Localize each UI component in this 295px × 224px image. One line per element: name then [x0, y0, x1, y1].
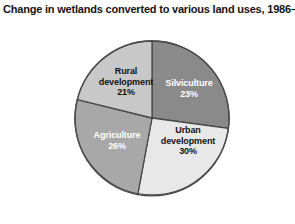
page-title: Change in wetlands converted to various …	[3, 3, 295, 15]
pie-label-silviculture-line1: Silviculture	[165, 78, 212, 88]
pie-label-agriculture-value: 26%	[108, 141, 126, 151]
pie-label-urban-development: Urban development 30%	[151, 125, 225, 157]
pie-label-silviculture: Silviculture 23%	[153, 78, 225, 99]
pie-label-rural-development-line1: Rural	[115, 66, 138, 76]
pie-label-rural-development: Rural development 21%	[89, 66, 163, 98]
pie-label-rural-development-value: 21%	[117, 87, 135, 97]
pie-label-urban-development-value: 30%	[179, 146, 197, 156]
pie-chart-svg	[73, 39, 231, 197]
pie-label-urban-development-line1: Urban	[175, 125, 201, 135]
pie-label-silviculture-value: 23%	[180, 89, 198, 99]
pie-label-rural-development-line2: development	[99, 77, 153, 87]
pie-label-agriculture: Agriculture 26%	[81, 130, 153, 151]
pie-label-urban-development-line2: development	[161, 136, 215, 146]
pie-label-agriculture-line1: Agriculture	[94, 130, 141, 140]
pie-chart: Rural development 21% Silviculture 23% U…	[73, 39, 231, 197]
